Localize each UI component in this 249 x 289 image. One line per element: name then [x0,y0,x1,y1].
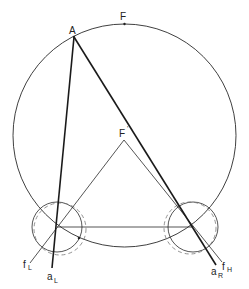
point-F [123,23,125,25]
label-F: F [120,11,126,22]
point-left-arc-mark [78,237,81,240]
label-f-L-sub: L [28,264,32,271]
point-A [73,36,75,38]
label-f-H: f [222,261,225,272]
triangle-right-side [124,140,222,262]
label-F-prime-mark: ' [127,125,128,132]
label-a-L-sub: L [54,277,58,284]
triangle-left-side [30,140,124,263]
right-dashed-circle [164,202,216,254]
geometry-diagram: F A F ' f L a L a R f H [0,0,249,289]
label-a-L: a [47,271,53,282]
label-a-R-sub: R [218,272,223,279]
label-f-H-sub: H [227,266,232,273]
line-A-aR [74,37,216,265]
label-f-L: f [23,259,26,270]
label-F-prime: F [119,128,125,139]
label-a-R: a [211,266,217,277]
label-A: A [69,25,76,36]
